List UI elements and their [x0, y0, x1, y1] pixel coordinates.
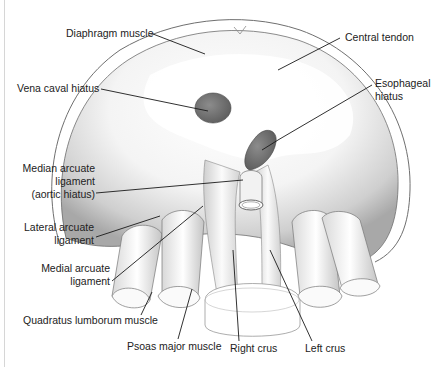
label-right-crus: Right crus — [230, 342, 277, 355]
label-quadratus-lumborum-muscle: Quadratus lumborum muscle — [23, 314, 158, 327]
left-psoas-major — [158, 210, 204, 307]
label-lateral-arcuate-ligament: Lateral arcuate ligament — [22, 221, 94, 247]
label-diaphragm-muscle: Diaphragm muscle — [66, 27, 154, 40]
label-vena-caval-hiatus: Vena caval hiatus — [17, 82, 99, 95]
label-median-arcuate-ligament: Median arcuate ligament (aortic hiatus) — [21, 162, 95, 201]
aorta-ring — [239, 171, 263, 211]
label-medial-arcuate-ligament: Medial arcuate ligament — [38, 262, 110, 288]
vena-caval-hiatus-shape — [195, 93, 231, 123]
label-psoas-major-muscle: Psoas major muscle — [127, 340, 222, 353]
label-left-crus: Left crus — [305, 342, 345, 355]
diaphragm-diagram: Diaphragm muscle Central tendon Vena cav… — [0, 0, 444, 367]
label-central-tendon: Central tendon — [345, 31, 414, 44]
label-esophageal-hiatus: Esophageal hiatus — [375, 77, 430, 103]
